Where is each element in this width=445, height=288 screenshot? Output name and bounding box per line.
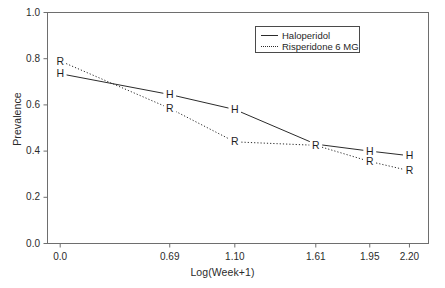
- prevalence-line-chart: Prevalence Log(Week+1) 0.00.20.40.60.81.…: [0, 0, 445, 288]
- y-tick-label: 0.4: [6, 145, 40, 156]
- legend: Haloperidol Risperidone 6 MG: [255, 26, 360, 53]
- x-axis-title: Log(Week+1): [0, 266, 445, 278]
- legend-label-risperidone: Risperidone 6 MG: [282, 41, 359, 52]
- y-tick-label: 0.2: [6, 191, 40, 202]
- data-point-marker: H: [229, 104, 241, 115]
- plot-frame: [48, 13, 429, 244]
- data-point-marker: H: [403, 150, 415, 161]
- legend-label-haloperidol: Haloperidol: [282, 30, 330, 41]
- y-tick-label: 1.0: [6, 7, 40, 18]
- data-point-marker: R: [229, 136, 241, 147]
- y-axis-ticks: [44, 13, 48, 244]
- x-axis-ticks: [60, 244, 409, 248]
- data-point-marker: R: [164, 103, 176, 114]
- x-tick-label: 1.95: [350, 251, 390, 262]
- data-point-marker: R: [54, 56, 66, 67]
- y-tick-label: 0.0: [6, 238, 40, 249]
- data-point-marker: R: [364, 156, 376, 167]
- plot-canvas: [0, 0, 445, 288]
- y-tick-label: 0.8: [6, 53, 40, 64]
- data-point-marker: R: [310, 140, 322, 151]
- x-tick-label: 1.10: [215, 251, 255, 262]
- legend-entry-risperidone: Risperidone 6 MG: [261, 40, 359, 52]
- data-point-marker: H: [54, 68, 66, 79]
- y-tick-label: 0.6: [6, 99, 40, 110]
- x-tick-label: 2.20: [389, 251, 429, 262]
- data-point-marker: R: [403, 165, 415, 176]
- legend-line-dotted-icon: [261, 42, 278, 51]
- x-tick-label: 0.0: [40, 251, 80, 262]
- data-point-marker: H: [164, 89, 176, 100]
- x-tick-label: 0.69: [150, 251, 190, 262]
- legend-line-solid-icon: [261, 31, 278, 40]
- x-tick-label: 1.61: [296, 251, 336, 262]
